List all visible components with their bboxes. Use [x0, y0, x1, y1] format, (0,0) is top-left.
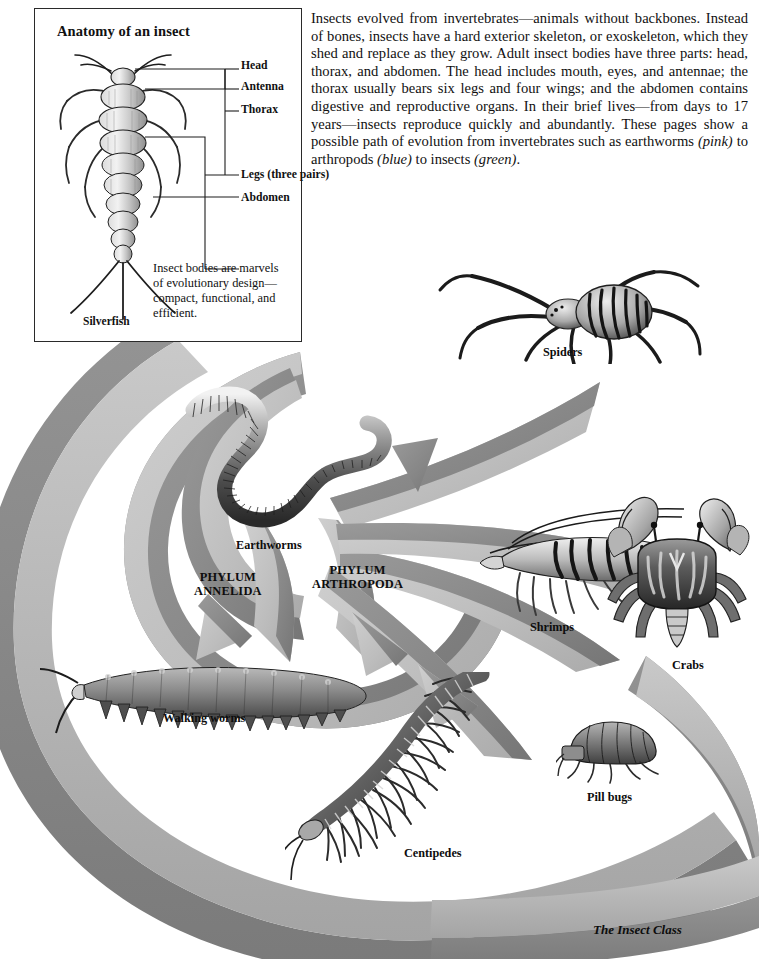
pink-emphasis: (pink)	[698, 133, 733, 149]
intro-end: .	[516, 151, 520, 167]
label-pill-bugs: Pill bugs	[587, 790, 632, 805]
label-phylum-annelida: PHYLUM ANNELIDA	[194, 571, 262, 598]
label-walking-worms: Walking worms	[163, 711, 245, 726]
label-shrimps: Shrimps	[530, 620, 574, 635]
anatomy-label-thorax: Thorax	[241, 103, 278, 116]
phylum-annelida-line1: PHYLUM	[194, 571, 262, 585]
label-spiders: Spiders	[543, 345, 582, 360]
green-emphasis: (green)	[474, 151, 516, 167]
label-the-insect-class: The Insect Class	[593, 922, 682, 938]
phylum-arthropoda-line1: PHYLUM	[312, 564, 403, 578]
earthworm-illustration	[175, 385, 395, 540]
crab-illustration	[604, 495, 759, 650]
anatomy-title: Anatomy of an insect	[57, 23, 190, 40]
anatomy-label-antenna: Antenna	[241, 80, 284, 93]
anatomy-note-text: Insect bodies are marvels of evolutionar…	[153, 261, 283, 321]
anatomy-label-abdomen: Abdomen	[241, 191, 290, 204]
intro-mid-2: to insects	[412, 151, 474, 167]
label-earthworms: Earthworms	[236, 538, 302, 553]
label-crabs: Crabs	[672, 658, 704, 673]
label-centipedes: Centipedes	[404, 846, 462, 861]
anatomy-label-legs: Legs (three pairs)	[241, 168, 329, 181]
blue-emphasis: (blue)	[377, 151, 412, 167]
label-phylum-arthropoda: PHYLUM ARTHROPODA	[312, 564, 403, 591]
pill-bug-illustration	[556, 716, 666, 784]
phylum-arthropoda-line2: ARTHROPODA	[312, 578, 403, 592]
anatomy-label-head: Head	[241, 59, 268, 72]
page-root: Anatomy of an insect	[0, 0, 759, 959]
anatomy-inset-panel: Anatomy of an insect	[34, 8, 302, 342]
centipede-illustration	[285, 672, 500, 887]
intro-paragraph-main: Insects evolved from invertebrates—anima…	[311, 10, 748, 149]
silverfish-label: Silverfish	[83, 315, 130, 327]
intro-paragraph: Insects evolved from invertebrates—anima…	[311, 10, 748, 168]
phylum-annelida-line2: ANNELIDA	[194, 585, 262, 599]
